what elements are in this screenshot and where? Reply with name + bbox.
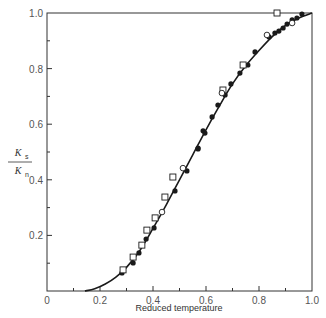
y-label-numerator: K [14, 147, 23, 158]
open-square-marker [144, 227, 150, 233]
y-label-denominator: K [14, 165, 23, 176]
x-tick-label: 0.2 [93, 295, 107, 306]
y-tick-label: 0.2 [29, 230, 43, 241]
chart-canvas: 00.20.40.60.81.00.20.40.60.81.0 Reduced … [0, 0, 326, 318]
open-square-marker [130, 254, 136, 260]
data-points [119, 10, 304, 276]
y-tick-label: 0.8 [29, 64, 43, 75]
open-square-marker [139, 242, 145, 248]
open-square-marker [274, 10, 280, 16]
x-tick-label: 0.8 [252, 295, 266, 306]
filled-circle-marker [131, 260, 136, 265]
axes-frame [47, 13, 312, 291]
filled-circle-marker [136, 250, 141, 255]
filled-circle-marker [299, 12, 304, 17]
y-axis-label: K s K n [8, 147, 32, 178]
open-square-marker [120, 267, 126, 273]
open-circle-marker [159, 209, 165, 215]
filled-circle-marker [228, 81, 233, 86]
y-label-numerator-sub: s [25, 153, 29, 160]
y-tick-label: 1.0 [29, 8, 43, 19]
open-square-marker [152, 215, 158, 221]
filled-circle-marker [281, 25, 286, 30]
filled-circle-marker [144, 236, 149, 241]
filled-circle-marker [252, 49, 257, 54]
filled-circle-marker [195, 146, 200, 151]
open-circle-marker [289, 20, 295, 26]
open-square-marker [240, 62, 246, 68]
filled-circle-marker [294, 15, 299, 20]
theory-curve [85, 13, 312, 291]
open-circle-marker [264, 32, 270, 38]
open-square-marker [170, 174, 176, 180]
filled-circle-marker [172, 188, 177, 193]
filled-circle-marker [284, 22, 289, 27]
filled-circle-marker [276, 28, 281, 33]
x-axis-label: Reduced temperature [135, 303, 222, 313]
theory-curve-path [85, 13, 312, 291]
filled-circle-marker [209, 114, 214, 119]
filled-circle-marker [215, 102, 220, 107]
y-label-denominator-sub: n [25, 171, 29, 178]
open-circle-marker [180, 165, 186, 171]
y-tick-label: 0.4 [29, 175, 43, 186]
x-tick-label: 0 [44, 295, 50, 306]
open-circle-marker [219, 90, 225, 96]
plot-frame [47, 13, 312, 291]
axis-ticks: 00.20.40.60.81.00.20.40.60.81.0 [29, 8, 319, 306]
y-tick-label: 0.6 [29, 119, 43, 130]
filled-circle-marker [202, 130, 207, 135]
open-square-marker [162, 194, 168, 200]
x-tick-label: 1.0 [305, 295, 319, 306]
filled-circle-marker [237, 70, 242, 75]
filled-circle-marker [151, 225, 156, 230]
